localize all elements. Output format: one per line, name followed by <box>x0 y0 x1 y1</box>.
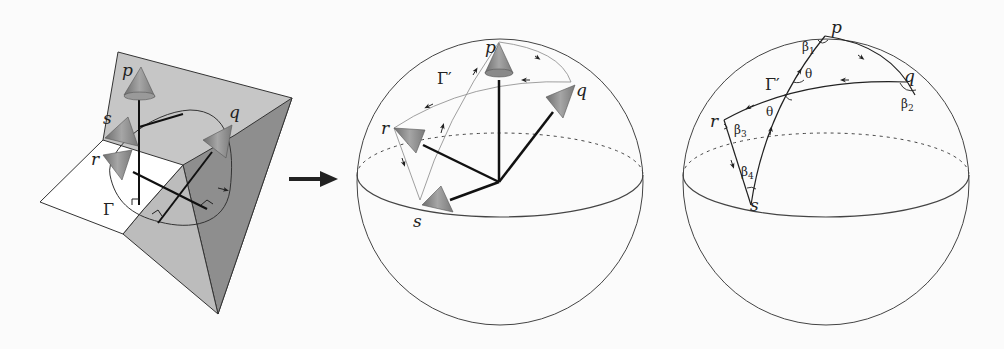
equator-front <box>683 175 969 217</box>
transition-arrow-icon <box>289 171 338 187</box>
spherical-polygon-panel: p q r s Γ′ β1 β2 β3 β4 θ θ <box>683 17 969 325</box>
cone-s <box>422 186 453 212</box>
label-beta4: β4 <box>741 165 754 181</box>
label-r: r <box>91 149 100 169</box>
surface-panel: p q s r Γ <box>40 52 292 314</box>
label-theta-upper: θ <box>805 67 812 81</box>
label-theta-lower: θ <box>766 105 773 119</box>
label-gamma-prime: Γ′ <box>765 75 780 94</box>
label-q: q <box>576 80 587 100</box>
label-beta1: β1 <box>802 40 815 56</box>
label-beta3: β3 <box>734 123 747 139</box>
equator-back <box>683 133 969 175</box>
label-beta2: β2 <box>901 97 914 113</box>
figure: p q s r Γ p <box>0 0 1004 349</box>
label-s: s <box>103 108 112 128</box>
cone-q <box>546 85 575 118</box>
label-r: r <box>381 118 390 138</box>
label-gamma: Γ <box>103 200 114 219</box>
label-p: p <box>831 17 842 37</box>
label-s: s <box>750 195 759 215</box>
gauss-map-sphere-panel: p q r s Γ′ <box>357 37 643 325</box>
label-p: p <box>122 60 133 80</box>
label-q: q <box>904 66 915 86</box>
edge-qr <box>724 82 907 120</box>
label-s: s <box>413 211 422 231</box>
sphere-outline <box>683 39 969 325</box>
label-r: r <box>710 111 719 131</box>
edge-sp <box>751 36 825 205</box>
label-q: q <box>229 102 240 122</box>
label-p: p <box>485 37 496 57</box>
label-gamma-prime: Γ′ <box>437 69 452 88</box>
